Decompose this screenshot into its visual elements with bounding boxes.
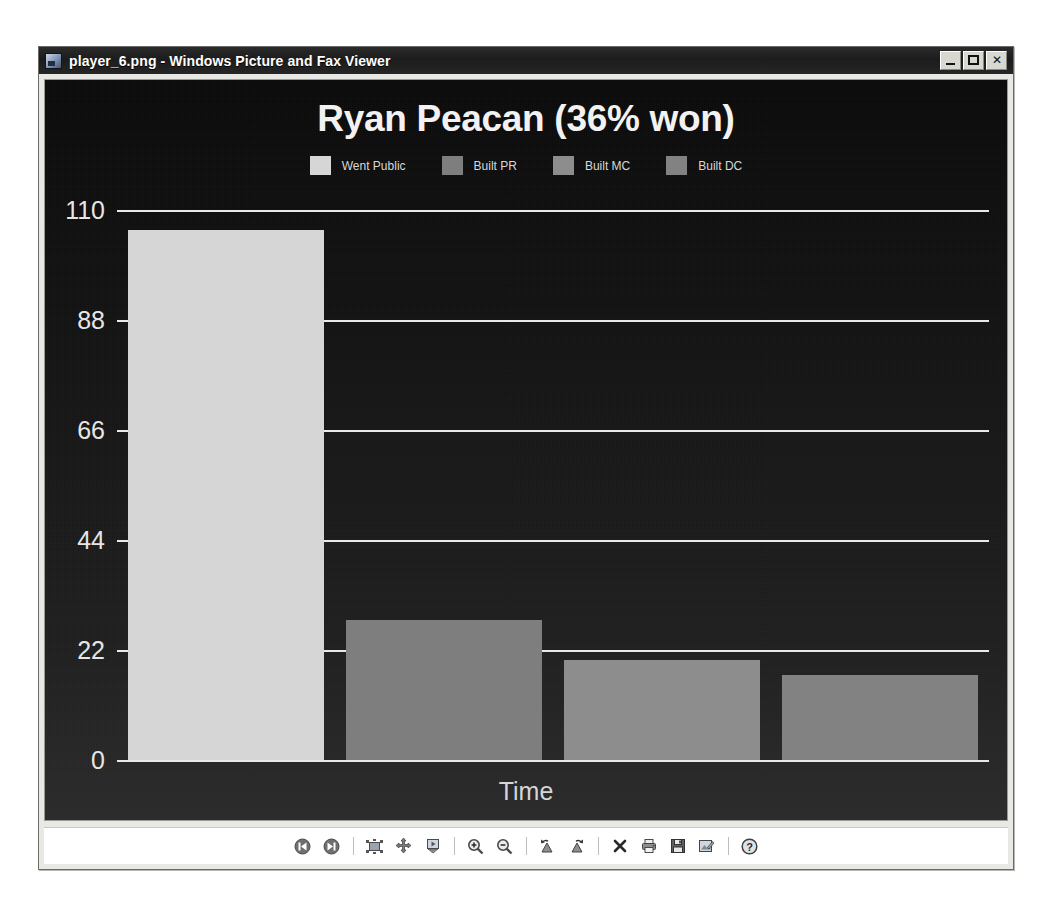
gridline <box>117 210 989 212</box>
best-fit-icon <box>366 839 383 854</box>
actual-size-icon <box>395 838 412 855</box>
legend-label: Built PR <box>474 159 517 173</box>
floppy-save-icon <box>670 838 686 854</box>
previous-image-button[interactable] <box>290 833 316 859</box>
magnifier-plus-icon <box>467 838 484 855</box>
bar <box>564 660 760 760</box>
print-button[interactable] <box>636 833 662 859</box>
legend-label: Built DC <box>698 159 742 173</box>
x-icon <box>612 838 628 854</box>
rotate-clockwise-button[interactable] <box>564 833 590 859</box>
image-viewport[interactable]: Ryan Peacan (36% won) Went PublicBuilt P… <box>44 79 1008 821</box>
legend-item: Built DC <box>666 156 742 175</box>
printer-icon <box>640 838 658 854</box>
rotate-left-icon <box>539 838 557 854</box>
picture-viewer-icon <box>45 53 62 69</box>
magnifier-minus-icon <box>496 838 513 855</box>
window-title: player_6.png - Windows Picture and Fax V… <box>69 53 391 69</box>
delete-button[interactable] <box>607 833 633 859</box>
maximize-button[interactable] <box>963 51 984 70</box>
rotate-right-icon <box>568 838 586 854</box>
bar <box>346 620 542 760</box>
y-axis-tick-label: 22 <box>77 636 105 665</box>
zoom-in-button[interactable] <box>463 833 489 859</box>
y-axis-tick-label: 66 <box>77 416 105 445</box>
help-button[interactable]: ? <box>737 833 763 859</box>
skip-forward-icon <box>323 838 340 855</box>
toolbar-separator <box>598 837 599 855</box>
window-title-bar[interactable]: player_6.png - Windows Picture and Fax V… <box>39 47 1013 74</box>
copy-to-button[interactable] <box>665 833 691 859</box>
legend-item: Built PR <box>442 156 517 175</box>
bar <box>782 675 978 760</box>
legend-swatch <box>666 156 687 175</box>
edit-image-icon <box>698 838 715 854</box>
minimize-button[interactable] <box>940 51 961 70</box>
screenshot-root: player_6.png - Windows Picture and Fax V… <box>0 0 1052 914</box>
actual-size-button[interactable] <box>391 833 417 859</box>
y-axis-tick-label: 88 <box>77 306 105 335</box>
close-icon: ✕ <box>987 52 1006 69</box>
y-axis-tick-label: 110 <box>65 196 105 225</box>
viewer-toolbar: ? <box>44 827 1008 864</box>
skip-back-icon <box>294 838 311 855</box>
legend-item: Went Public <box>310 156 406 175</box>
next-image-button[interactable] <box>319 833 345 859</box>
bar <box>128 230 324 760</box>
window-controls: ✕ <box>940 51 1010 70</box>
best-fit-button[interactable] <box>362 833 388 859</box>
y-axis-tick-label: 44 <box>77 526 105 555</box>
gridline <box>117 760 989 762</box>
legend-swatch <box>442 156 463 175</box>
plot-area: 022446688110 <box>117 210 989 760</box>
bar-chart: Ryan Peacan (36% won) Went PublicBuilt P… <box>45 80 1007 820</box>
toolbar-separator <box>454 837 455 855</box>
toolbar-separator <box>728 837 729 855</box>
legend-label: Built MC <box>585 159 630 173</box>
legend-swatch <box>553 156 574 175</box>
y-axis-tick-label: 0 <box>91 746 105 775</box>
legend-label: Went Public <box>342 159 406 173</box>
start-slideshow-button[interactable] <box>420 833 446 859</box>
edit-button[interactable] <box>694 833 720 859</box>
chart-title: Ryan Peacan (36% won) <box>45 98 1007 140</box>
slideshow-icon <box>425 838 441 855</box>
legend-item: Built MC <box>553 156 630 175</box>
x-axis-label: Time <box>45 777 1007 806</box>
legend-swatch <box>310 156 331 175</box>
close-button[interactable]: ✕ <box>986 51 1007 70</box>
toolbar-separator <box>526 837 527 855</box>
chart-legend: Went PublicBuilt PRBuilt MCBuilt DC <box>45 156 1007 175</box>
picture-viewer-window: player_6.png - Windows Picture and Fax V… <box>38 46 1014 870</box>
svg-text:?: ? <box>746 840 753 852</box>
question-circle-icon: ? <box>741 838 758 855</box>
zoom-out-button[interactable] <box>492 833 518 859</box>
toolbar-separator <box>353 837 354 855</box>
rotate-counterclockwise-button[interactable] <box>535 833 561 859</box>
